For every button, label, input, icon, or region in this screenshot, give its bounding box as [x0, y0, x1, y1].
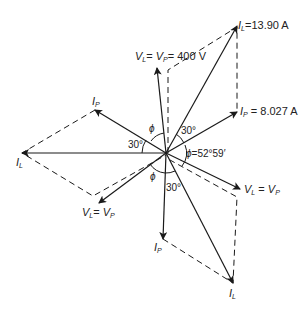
dashed-top — [168, 27, 237, 153]
label-il-bottom: IL — [229, 288, 236, 300]
angle-phi-bottom: ϕ — [150, 172, 156, 182]
phasor-ip-right — [166, 112, 237, 153]
phasor-ip-bottom — [163, 153, 166, 239]
phasor-il-bottom — [166, 153, 233, 283]
phasor-diagram — [0, 0, 303, 314]
label-v-lowright: VL = VP — [244, 184, 280, 196]
label-v-top: VL= VP= 400 V — [135, 51, 206, 63]
angle-30-bottom: 30° — [166, 183, 181, 193]
label-v-lowleft: VL= VP — [82, 207, 115, 219]
label-il-top: IL=13.90 A — [238, 20, 289, 32]
label-ip-left: IP — [92, 96, 100, 108]
phasor-vl-top — [157, 68, 166, 153]
label-il-left: IL — [16, 157, 23, 169]
arc-30-bottom — [165, 171, 175, 173]
angle-30-left: 30° — [128, 140, 143, 150]
label-ip-right: IP = 8.027 A — [240, 106, 298, 118]
arc-phi-top — [151, 133, 164, 141]
label-ip-bottom: IP — [154, 242, 162, 254]
angle-30-upper-right: 30° — [181, 126, 196, 136]
angle-phi-right: ϕ=52°59′ — [186, 149, 226, 159]
dashed-bottom — [163, 160, 237, 283]
angle-phi-top: ϕ — [149, 124, 155, 134]
